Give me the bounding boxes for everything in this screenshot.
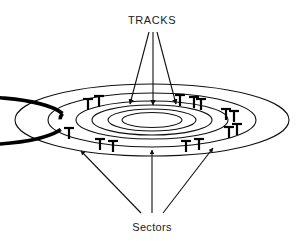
tracks-label: TRACKS bbox=[128, 14, 176, 26]
sector-mark bbox=[181, 141, 191, 152]
sector-mark bbox=[229, 111, 239, 122]
sector-mark bbox=[175, 95, 185, 106]
disk-platter-diagram: TRACKS Sectors bbox=[0, 0, 304, 241]
sectors-arrow-left bbox=[81, 151, 141, 213]
sector-mark bbox=[224, 127, 234, 138]
ring-platter-edge bbox=[15, 84, 289, 156]
sector-mark bbox=[232, 124, 242, 135]
sector-mark bbox=[108, 141, 118, 152]
platter-rings bbox=[15, 84, 289, 156]
sectors-label: Sectors bbox=[132, 221, 172, 233]
sectors-arrow-right bbox=[163, 148, 213, 213]
tracks-leader-arrows bbox=[130, 32, 176, 105]
ring-spindle-hub bbox=[122, 113, 182, 128]
sector-ring-arc-stub bbox=[60, 114, 62, 120]
sectors-leader-arrows bbox=[81, 148, 213, 213]
